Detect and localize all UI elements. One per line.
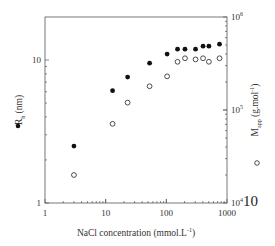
mapp-data-point [147,84,152,89]
mapp-data-point [193,57,198,62]
rh-data-point [175,47,180,52]
mapp-data-point [217,56,222,61]
rh-data-point [72,144,77,149]
x-axis-ticks: 1101001000 [43,199,237,218]
rh-data-point [201,44,206,49]
x-tick-label: 1000 [218,208,237,218]
data-points [72,42,222,178]
rh-data-point [193,47,198,52]
x-axis-label: NaCl concentration (mmol.L-1) [77,227,195,239]
stray-label: 10 [243,193,258,209]
rh-data-point [165,52,170,57]
y-right-axis-ticks: 104105106 [223,11,243,208]
y-left-tick-label: 1 [37,198,42,208]
rh-data-point [125,75,130,80]
x-tick-label: 100 [160,208,174,218]
y-right-tick-label: 106 [231,11,243,22]
y-left-tick-label: 10 [32,55,42,65]
mapp-data-point [110,121,115,126]
mapp-data-point [183,56,188,61]
y-right-tick-label: 104 [231,197,243,208]
mapp-data-point [72,173,77,178]
rh-data-point [110,88,115,93]
x-tick-label: 10 [101,208,111,218]
y-left-axis-label: Rh (nm) [14,95,26,125]
rh-data-point [183,47,188,52]
rh-data-point [217,42,222,47]
legend-filled-circle-marker [16,124,21,129]
mapp-data-point [175,59,180,64]
rh-data-point [147,61,152,66]
mapp-data-point [165,74,170,79]
mapp-data-point [125,100,130,105]
y-right-axis-label: Mapp (g.mol-1) [249,84,262,137]
y-left-axis-ticks: 110 [32,55,49,208]
mapp-data-point [206,59,211,64]
mapp-data-point [201,56,206,61]
rh-data-point [206,44,211,49]
scatter-chart: 1101001000 110 104105106 NaCl concentrat… [0,0,275,246]
legend-open-circle-marker [255,161,260,166]
y-right-tick-label: 105 [231,104,243,115]
x-tick-label: 1 [43,208,48,218]
